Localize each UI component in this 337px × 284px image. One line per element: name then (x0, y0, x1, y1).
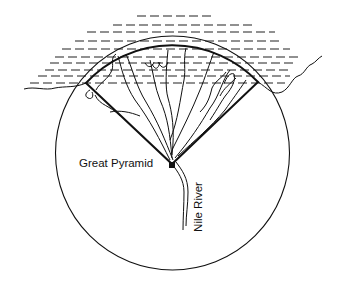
coastline-east (258, 56, 322, 93)
great-pyramid-label: Great Pyramid (79, 157, 153, 169)
delta-channels (86, 48, 246, 160)
sea-hatching (30, 16, 300, 83)
nile-river-label: Nile River (192, 177, 204, 237)
nile-river (172, 162, 188, 230)
nile-delta-diagram (0, 0, 337, 284)
